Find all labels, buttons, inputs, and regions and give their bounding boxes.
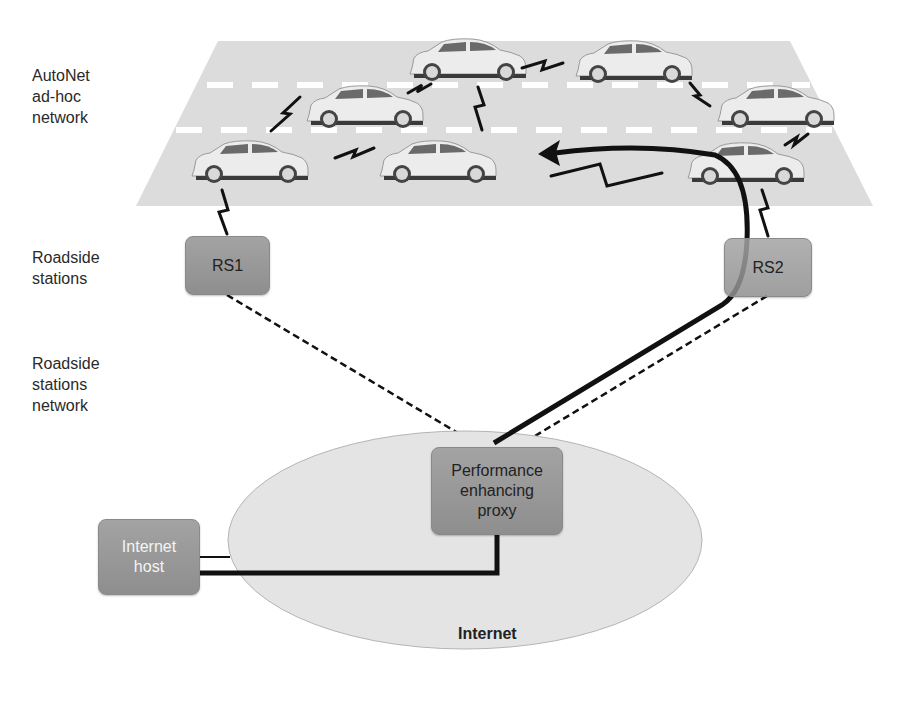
proxy-node[interactable]: Performance enhancing proxy (431, 447, 563, 535)
roadside-network-links (227, 295, 767, 445)
internet-host-node[interactable]: Internet host (98, 519, 200, 595)
network-diagram (0, 0, 900, 713)
internet-label: Internet (458, 625, 517, 643)
autonet-label: AutoNet ad-hoc network (32, 65, 90, 128)
roadside-stations-label: Roadside stations (32, 247, 100, 289)
rs2-node[interactable]: RS2 (724, 238, 812, 297)
rs1-node[interactable]: RS1 (185, 236, 270, 295)
roadside-network-label: Roadside stations network (32, 353, 100, 416)
